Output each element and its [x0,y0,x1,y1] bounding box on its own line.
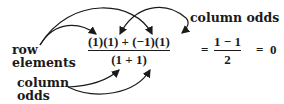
arrow-colodds-bottom-to-den-1a [68,70,119,87]
result-fraction: 1 − 1 2 [214,34,241,67]
row-label-line2: elements [12,56,76,69]
column-odds-bottom-label: column odds [17,76,69,102]
column-label-line2: odds [17,89,69,102]
result-numerator: 1 − 1 [214,34,241,49]
equals-sign-1: = [201,42,208,58]
arrow-colodds-bottom-to-den-1b [68,70,150,94]
equals-sign-2: = [256,42,263,58]
main-numerator: (1)(1) + (−1)(1) [88,34,170,49]
fraction-bar [88,50,170,51]
row-elements-label: row elements [12,43,76,69]
final-value: 0 [270,42,277,58]
main-denominator: (1 + 1) [111,52,147,67]
arrow-colodds-to-second-1 [120,7,186,34]
column-odds-top-label: column odds [190,11,279,24]
result-denominator: 2 [224,52,231,67]
main-fraction: (1)(1) + (−1)(1) (1 + 1) [88,34,170,67]
arrow-colodds-to-last-1 [182,18,188,33]
fraction-bar [214,50,241,51]
